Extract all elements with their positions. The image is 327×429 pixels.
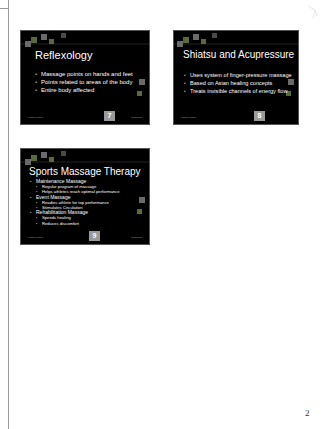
slide-footer-date: 1/23/2003 [131, 116, 142, 119]
slide-title: Reflexology [35, 49, 92, 61]
slide-bullet-list: Uses system of finger-pressure massage B… [184, 71, 292, 95]
bullet-item: Massage points on hands and feet [35, 70, 133, 78]
slide-thumbnail-7[interactable]: Reflexology Massage points on hands and … [20, 30, 150, 125]
slide-footer-author: Ariadne Tonea [180, 116, 196, 119]
bullet-item: Uses system of finger-pressure massage [184, 71, 292, 79]
page-margin-tick [0, 8, 9, 9]
slide-bullet-list: Massage points on hands and feet Points … [35, 70, 133, 94]
slide-thumbnail-8[interactable]: Shiatsu and Acupressure Uses system of f… [173, 30, 299, 125]
slide-footer-author: Ariadne Tonea [27, 116, 43, 119]
slide-number: 8 [254, 111, 265, 121]
slide-title: Shiatsu and Acupressure [183, 49, 294, 60]
bullet-item: Points related to areas of the body [35, 78, 133, 86]
page-margin-line [8, 0, 9, 429]
slide-number: 9 [89, 231, 100, 241]
bullet-item: Treats invisible channels of energy flow [184, 87, 292, 95]
bullet-item: Entire body affected [35, 86, 133, 94]
bullet-item: Based on Asian healing concepts [184, 79, 292, 87]
slide-number: 7 [104, 111, 115, 121]
slide-thumbnail-9[interactable]: Sports Massage Therapy Maintenance Massa… [20, 148, 150, 245]
bullet-subitem: Reduces discomfort [30, 221, 120, 226]
slide-footer-date: 1/23/2003 [131, 236, 142, 239]
page-number: 2 [305, 408, 310, 418]
slide-title: Sports Massage Therapy [29, 166, 141, 177]
slide-footer-author: Ariadne Tonea [27, 236, 43, 239]
slide-bullet-list: Maintenance Massage Regular program of m… [30, 179, 120, 226]
page-corner-mark-icon [305, 4, 319, 20]
